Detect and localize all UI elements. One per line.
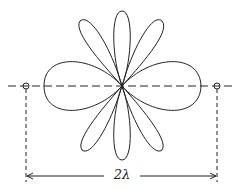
radiation-pattern-diagram (0, 0, 243, 189)
lobe-upper-left (79, 20, 122, 86)
lobe-lower-left (81, 86, 122, 151)
lobe-bottom (114, 86, 131, 160)
lobe-lower-right (122, 86, 163, 151)
lobe-top (114, 11, 131, 86)
lobe-upper-right (122, 20, 164, 86)
dimension-label: 2λ (104, 167, 140, 183)
